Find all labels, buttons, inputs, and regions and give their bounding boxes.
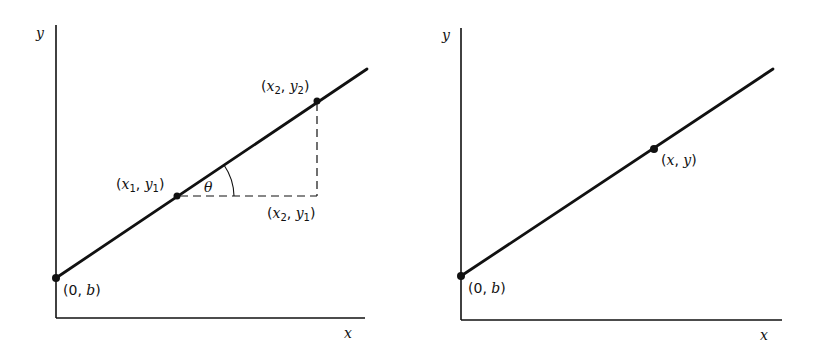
right-line bbox=[461, 69, 773, 276]
point-x1-y1-label: (x1, y1) bbox=[116, 176, 164, 194]
point-x2-y2 bbox=[314, 98, 321, 105]
point-x-y bbox=[650, 145, 658, 153]
angle-theta-label: θ bbox=[204, 179, 213, 195]
right-x-axis-label: x bbox=[760, 327, 768, 343]
left-y-axis-label: y bbox=[35, 25, 45, 41]
diagram-canvas: y x θ (0, b) (x1, y1) (x2, y2) (x2, y1) bbox=[0, 0, 818, 351]
intercept-point-right bbox=[457, 272, 465, 280]
point-x1-y1 bbox=[174, 193, 181, 200]
angle-arc bbox=[224, 165, 234, 196]
corner-x2-y1-label: (x2, y1) bbox=[267, 205, 315, 223]
point-x-y-label: (x, y) bbox=[661, 152, 697, 168]
left-x-axis-label: x bbox=[344, 325, 352, 341]
right-y-axis-label: y bbox=[441, 27, 451, 43]
intercept-label-right: (0, b) bbox=[468, 280, 506, 296]
left-panel: y x θ (0, b) (x1, y1) (x2, y2) (x2, y1) bbox=[35, 25, 367, 341]
intercept-point bbox=[52, 274, 60, 282]
intercept-label: (0, b) bbox=[63, 282, 101, 298]
right-panel: y x (0, b) (x, y) bbox=[441, 27, 782, 343]
point-x2-y2-label: (x2, y2) bbox=[261, 78, 309, 96]
